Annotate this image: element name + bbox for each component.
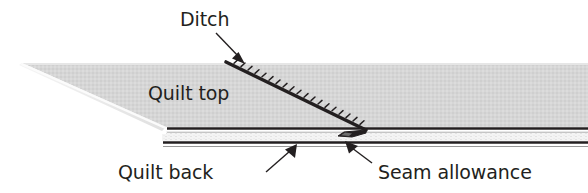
label-quilt-top: Quilt top [148,82,229,104]
ditch-leader [216,33,245,64]
label-quilt-back: Quilt back [118,161,213,183]
seam-allowance-leader [345,141,372,163]
label-ditch: Ditch [180,8,229,30]
quilt-back-leader [266,144,297,172]
quilting-ditch-diagram: Ditch Quilt top Quilt back Seam allowanc… [0,0,588,193]
label-seam-allowance: Seam allowance [378,161,532,183]
diagram-canvas: Ditch Quilt top Quilt back Seam allowanc… [0,0,588,193]
quilt-back-layer [163,143,588,147]
